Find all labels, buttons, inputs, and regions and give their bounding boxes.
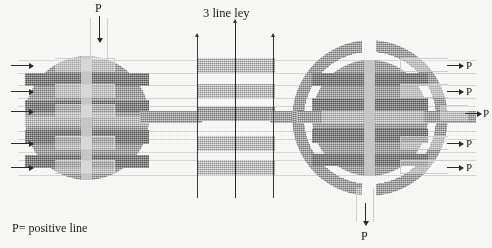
center-band-2 (197, 84, 275, 98)
right-arrow-3 (465, 113, 481, 114)
bottom-arrow (365, 203, 366, 225)
right-disc-vertical-gap (364, 60, 375, 176)
right-arrow-label-3: P (483, 108, 489, 119)
right-arrow-2 (447, 91, 463, 92)
right-arrow-4 (447, 143, 463, 144)
center-band-3 (197, 107, 275, 121)
left-center-connector (140, 111, 202, 123)
left-arrow-2 (11, 91, 33, 92)
left-arrow-4 (11, 143, 33, 144)
left-callout-3 (55, 104, 115, 118)
right-callout-1 (400, 58, 448, 72)
left-callout-1 (55, 58, 115, 72)
left-callout-4 (55, 136, 115, 150)
left-callout-5 (55, 160, 115, 174)
top-arrow-label: P (95, 2, 102, 14)
right-arrow-1 (447, 65, 463, 66)
right-callout-5 (400, 160, 448, 174)
right-callout-2 (400, 84, 448, 98)
center-band-1 (197, 58, 275, 73)
right-arrow-5 (447, 167, 463, 168)
legend-text: P= positive line (12, 222, 87, 234)
left-arrow-3 (11, 111, 33, 112)
top-arrow (99, 16, 100, 42)
left-edge-connector (297, 111, 321, 123)
right-node-disc-group (312, 60, 428, 176)
vertical-ley-line-1 (197, 34, 198, 198)
figure-title: 3 line ley (203, 7, 250, 19)
vertical-ley-line-3 (273, 34, 274, 198)
left-arrow-1 (11, 65, 33, 66)
left-arrow-5 (11, 167, 33, 168)
right-callout-4 (400, 136, 448, 150)
right-arrow-label-5: P (466, 162, 472, 173)
center-band-4 (197, 136, 275, 151)
figure-canvas: P P P P P P P 3 line ley P= positive lin… (0, 0, 492, 248)
right-arrow-label-2: P (466, 86, 472, 97)
right-ring-top-gap (362, 40, 376, 56)
left-callout-2 (55, 84, 115, 98)
right-callout-3 (440, 105, 468, 121)
vertical-ley-line-2 (235, 20, 236, 198)
bottom-arrow-label: P (361, 230, 368, 242)
center-band-5 (197, 160, 275, 175)
right-arrow-label-4: P (466, 138, 472, 149)
right-arrow-label-1: P (466, 60, 472, 71)
